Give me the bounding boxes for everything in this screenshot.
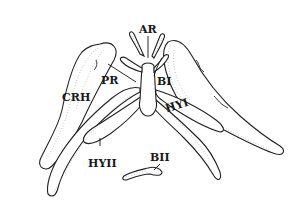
label-bii: BII	[150, 152, 170, 163]
basibranchial-i	[120, 32, 168, 116]
basibranchial-ii	[123, 167, 162, 180]
label-ar: AR	[139, 24, 157, 35]
hyobranchial-diagram: AR PR CRH BI HYI HYII BII	[0, 0, 299, 218]
label-pr: PR	[101, 75, 118, 86]
label-hyii: HYII	[88, 158, 117, 169]
label-crh: CRH	[62, 92, 90, 103]
label-bi: BI	[157, 76, 171, 87]
